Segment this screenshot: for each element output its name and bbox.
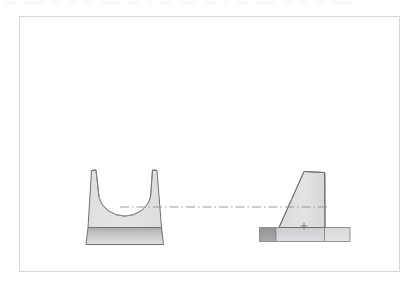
front-view-body [88, 170, 162, 228]
side-view-base-left-block [260, 228, 277, 242]
side-view[interactable] [260, 172, 351, 242]
side-view-rib-body [279, 172, 325, 228]
side-view-base-right [325, 228, 351, 242]
front-view-horn-tip-left [92, 170, 97, 171]
front-view-horn-tip-right [153, 170, 158, 171]
side-view-base-middle [276, 228, 325, 242]
drawing-geometry[interactable] [0, 0, 418, 291]
front-view-base-plate [86, 228, 164, 245]
